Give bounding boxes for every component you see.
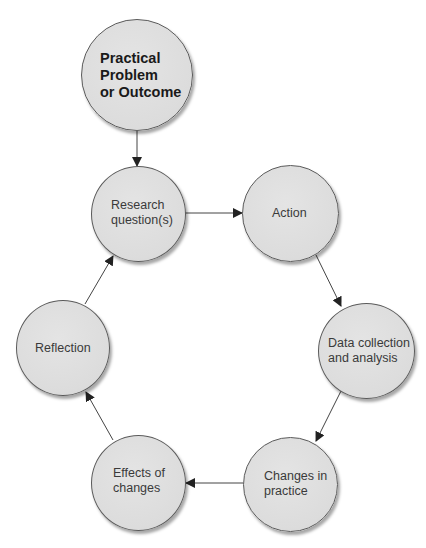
arrows-layer — [0, 0, 426, 548]
node-action-label: Action — [272, 206, 307, 221]
node-data-collection-label: Data collection and analysis — [328, 336, 410, 366]
node-practical-problem-label: Practical Problem or Outcome — [100, 50, 181, 101]
node-research-question-label: Research question(s) — [111, 198, 173, 228]
node-changes-in-practice-label: Changes in practice — [264, 469, 327, 499]
arrow-data-to-changes — [316, 391, 341, 441]
arrow-effects-to-reflection — [86, 392, 113, 440]
node-effects-of-changes-label: Effects of changes — [113, 466, 165, 496]
node-reflection-label: Reflection — [35, 341, 91, 356]
arrow-reflection-to-research — [85, 256, 113, 304]
arrow-action-to-data — [316, 255, 341, 306]
